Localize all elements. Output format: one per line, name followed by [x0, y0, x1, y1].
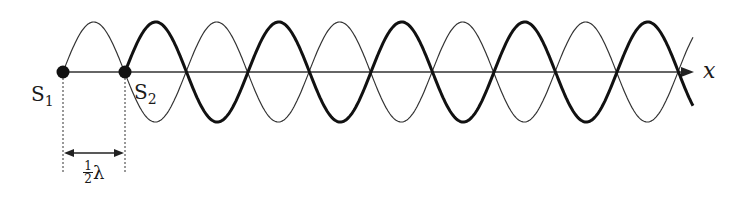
axis-label: x: [703, 58, 715, 83]
arrowhead-left-icon: [64, 149, 74, 157]
wave-diagram: [0, 0, 744, 204]
source-s2-dot: [119, 66, 132, 79]
axis-arrow-icon: [681, 67, 694, 77]
separation-label: 1 2 λ: [83, 160, 104, 185]
source-s1-dot: [57, 66, 70, 79]
arrowhead-right-icon: [114, 149, 124, 157]
source-s2-label: S2: [134, 80, 157, 104]
source-s1-label: S1: [31, 82, 54, 106]
fraction-one-half: 1 2: [83, 160, 93, 185]
